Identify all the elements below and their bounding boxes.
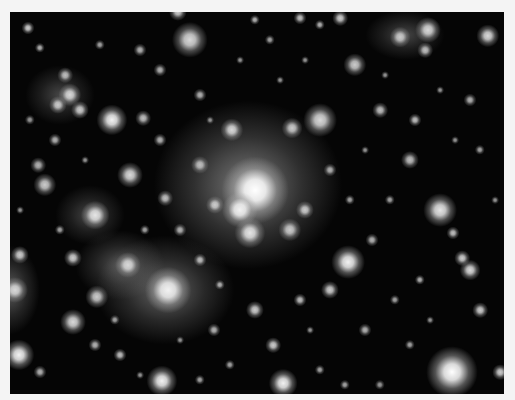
galaxy xyxy=(220,118,243,141)
galaxy xyxy=(294,12,307,25)
galaxy xyxy=(215,280,225,290)
galaxy xyxy=(117,162,143,188)
galaxy xyxy=(154,64,167,77)
galaxy xyxy=(146,365,177,394)
galaxy xyxy=(57,67,73,83)
galaxy xyxy=(10,339,35,370)
galaxy xyxy=(145,267,192,314)
galaxy xyxy=(321,281,339,299)
galaxy xyxy=(451,136,459,144)
galaxy xyxy=(89,339,102,352)
galaxy xyxy=(115,252,141,278)
galaxy xyxy=(110,315,120,325)
galaxy xyxy=(35,43,45,53)
galaxy xyxy=(472,302,488,318)
galaxy xyxy=(157,190,173,206)
galaxy xyxy=(390,295,400,305)
galaxy-cluster-photo xyxy=(10,12,504,394)
galaxy xyxy=(96,104,127,135)
galaxy xyxy=(296,201,314,219)
galaxy xyxy=(30,157,46,173)
galaxy xyxy=(385,195,395,205)
galaxy xyxy=(195,375,205,385)
galaxy xyxy=(415,275,425,285)
galaxy xyxy=(33,173,56,196)
galaxy xyxy=(426,316,434,324)
galaxy xyxy=(169,12,187,21)
galaxy xyxy=(294,294,307,307)
galaxy xyxy=(55,225,65,235)
galaxy xyxy=(436,86,444,94)
galaxy xyxy=(375,380,385,390)
galaxy xyxy=(491,196,499,204)
galaxy xyxy=(71,101,89,119)
galaxy xyxy=(343,53,366,76)
galaxy xyxy=(282,118,303,139)
galaxy xyxy=(10,277,28,303)
galaxy xyxy=(206,116,214,124)
galaxy xyxy=(415,17,441,43)
galaxy xyxy=(372,102,388,118)
galaxy xyxy=(265,35,275,45)
galaxy xyxy=(269,369,298,394)
galaxy xyxy=(492,364,504,380)
galaxy xyxy=(114,349,127,362)
galaxy xyxy=(250,15,260,25)
galaxy xyxy=(361,146,369,154)
galaxy xyxy=(60,309,86,335)
galaxy xyxy=(154,134,167,147)
galaxy xyxy=(405,340,415,350)
galaxy xyxy=(332,12,348,26)
galaxy xyxy=(176,336,184,344)
galaxy xyxy=(306,326,314,334)
galaxy xyxy=(194,254,207,267)
galaxy xyxy=(11,246,29,264)
galaxy xyxy=(324,164,337,177)
galaxy xyxy=(208,324,221,337)
galaxy xyxy=(303,103,337,137)
galaxy xyxy=(426,346,478,394)
galaxy xyxy=(49,134,62,147)
galaxy xyxy=(381,71,389,79)
galaxy xyxy=(246,301,264,319)
galaxy xyxy=(366,234,379,247)
galaxy xyxy=(417,42,433,58)
galaxy xyxy=(265,337,281,353)
galaxy xyxy=(172,22,208,58)
galaxy xyxy=(16,206,24,214)
galaxy-objects-layer xyxy=(10,12,504,394)
galaxy xyxy=(81,201,110,230)
galaxy xyxy=(315,20,325,30)
galaxy xyxy=(447,227,460,240)
galaxy xyxy=(475,145,485,155)
galaxy xyxy=(401,151,419,169)
galaxy xyxy=(49,96,67,114)
galaxy xyxy=(225,360,235,370)
galaxy xyxy=(194,89,207,102)
galaxy xyxy=(25,115,35,125)
galaxy xyxy=(315,365,325,375)
galaxy xyxy=(476,24,499,47)
galaxy xyxy=(22,22,35,35)
galaxy xyxy=(301,56,309,64)
galaxy xyxy=(140,225,150,235)
galaxy xyxy=(135,110,151,126)
galaxy xyxy=(276,76,284,84)
galaxy xyxy=(340,380,350,390)
galaxy xyxy=(85,285,108,308)
galaxy xyxy=(359,324,372,337)
galaxy xyxy=(236,56,244,64)
galaxy xyxy=(134,44,147,57)
galaxy xyxy=(454,250,470,266)
galaxy xyxy=(278,218,301,241)
galaxy xyxy=(409,114,422,127)
galaxy xyxy=(234,217,265,248)
galaxy xyxy=(345,195,355,205)
galaxy xyxy=(81,156,89,164)
galaxy xyxy=(331,245,365,279)
galaxy xyxy=(174,224,187,237)
galaxy xyxy=(136,371,144,379)
galaxy xyxy=(390,27,411,48)
galaxy xyxy=(95,40,105,50)
galaxy xyxy=(464,94,477,107)
